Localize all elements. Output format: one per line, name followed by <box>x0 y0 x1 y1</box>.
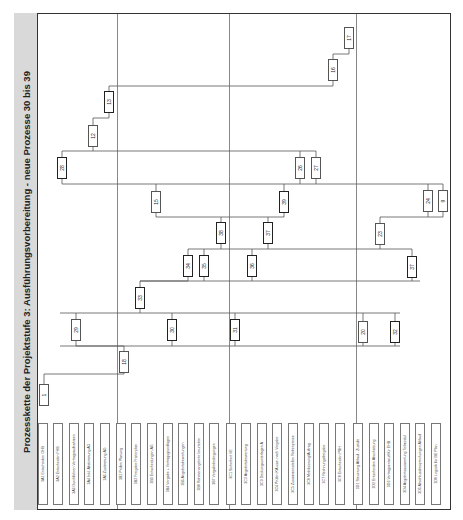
row-label-3c3: 3C3 Deckungsunterlagen A <box>257 423 267 505</box>
process-node-32[interactable]: 32 <box>390 321 400 343</box>
process-node-number: 36 <box>249 263 255 269</box>
process-node-26[interactable]: 26 <box>295 157 305 179</box>
process-node-number: 32 <box>392 329 398 335</box>
row-label-text: 3B3 Entscheidungen AG <box>150 444 154 483</box>
process-node-27[interactable]: 27 <box>311 157 321 179</box>
row-label-3d5: 3D5 Abschlussbesprechungen Ablauf <box>415 423 425 505</box>
process-node-24[interactable]: 24 <box>423 190 433 212</box>
row-label-3a3: 3A3 Durchführen Vertragsaufnahmen <box>69 423 79 505</box>
process-node-number: 29 <box>73 327 79 333</box>
process-node-15[interactable]: 15 <box>151 191 161 213</box>
process-node-number: 26 <box>297 165 303 171</box>
row-label-text: 3C3 Deckungsunterlagen A <box>260 442 264 486</box>
row-label-text: 3D4 Angebotsauswertung Teilmodul <box>403 435 407 492</box>
row-label-text: 3C8 Entscheiden PBH <box>338 446 342 482</box>
row-label-3b6: 3B6 Rahmenangebote beurteilen <box>194 423 204 505</box>
process-node-number: 24 <box>425 198 431 204</box>
process-node-33[interactable]: 33 <box>135 287 145 309</box>
process-node-35[interactable]: 35 <box>199 255 209 277</box>
row-label-3a4: 3A4 Inkl. Abstimmung AG <box>84 423 94 505</box>
row-label-3c1: 3C1 Sicherheit VE <box>226 423 236 505</box>
row-label-text: 3C7 Rechnungsfreigabe <box>322 445 326 484</box>
row-label-text: 3D2 Entscheiden Abschätzung <box>372 440 376 489</box>
process-node-13[interactable]: 13 <box>104 91 114 113</box>
process-node-31[interactable]: 31 <box>230 319 240 341</box>
process-node-number: 18 <box>121 359 127 365</box>
row-label-text: 3A1 Entscheiden OHB <box>41 446 45 482</box>
row-label-3d6: 3D6 Logistik für BE Plan <box>431 423 441 505</box>
row-label-3d3: 3D3 Vertragsentwurf für EHB <box>384 423 394 505</box>
row-label-text: 3B1 Prüfen Planung <box>119 448 123 480</box>
row-label-text: 3B5 Angebotsbewertungen <box>181 442 185 485</box>
row-label-3a5: 3A5 Zustimmung AG <box>100 423 110 505</box>
process-node-37[interactable]: 37 <box>407 256 417 278</box>
process-node-number: 28 <box>59 165 65 171</box>
process-node-39[interactable]: 39 <box>279 191 289 213</box>
row-label-text: 3D6 Logistik für BE Plan <box>434 445 438 484</box>
row-label-text: 3A3 Durchführen Vertragsaufnahmen <box>72 434 76 494</box>
process-node-number: 35 <box>201 263 207 269</box>
row-label-3b7: 3B7 Vergabebedingungen <box>209 423 219 505</box>
row-label-3d4: 3D4 Angebotsauswertung Teilmodul <box>400 423 410 505</box>
process-node-38[interactable]: 38 <box>216 222 226 244</box>
process-node-17[interactable]: 17 <box>344 27 354 49</box>
row-label-text: 3C2 Angebotsbewertung <box>244 444 248 483</box>
row-label-text: 3A4 Inkl. Abstimmung AG <box>87 444 91 485</box>
row-label-text: 3C1 Sicherheit VE <box>229 449 233 478</box>
row-label-3a1: 3A1 Entscheiden OHB <box>38 423 48 505</box>
row-label-text: 3D3 Vertragsentwurf für EHB <box>387 441 391 487</box>
process-node-number: 38 <box>218 230 224 236</box>
process-node-37b[interactable]: 37 <box>263 222 273 244</box>
process-node-18[interactable]: 18 <box>119 351 129 373</box>
row-label-text: 3C4 Prüfen KA usw. nach Vergabe <box>275 436 279 491</box>
process-node-number: 15 <box>153 199 159 205</box>
process-node-36[interactable]: 36 <box>247 255 257 277</box>
process-node-number: 1 <box>41 394 47 397</box>
row-label-text: 3B4 Vergabe + Vertragsgrundlagen <box>166 436 170 492</box>
row-label-3c4: 3C4 Prüfen KA usw. nach Vergabe <box>272 423 282 505</box>
row-label-3c6: 3C6 Mobilisierung/Auftrag <box>304 423 314 505</box>
process-node-number: 13 <box>106 99 112 105</box>
process-node-20[interactable]: 20 <box>358 321 368 343</box>
row-label-3d1: 3D1 Steuerung Ablauf - Zustufe <box>353 423 363 505</box>
process-node-29[interactable]: 29 <box>71 319 81 341</box>
process-node-number: 39 <box>281 199 287 205</box>
process-node-number: 31 <box>232 327 238 333</box>
row-label-text: 3B6 Rahmenangebote beurteilen <box>197 438 201 491</box>
row-label-3b2: 3B2 Freigabe Fristenplan <box>131 423 141 505</box>
process-node-number: 34 <box>185 263 191 269</box>
row-label-3b3: 3B3 Entscheidungen AG <box>147 423 157 505</box>
row-label-text: 3C5 Zusammenstellen Nebenpreise <box>291 435 295 492</box>
row-label-3b4: 3B4 Vergabe + Vertragsgrundlagen <box>163 423 173 505</box>
process-node-34[interactable]: 34 <box>183 255 193 277</box>
process-node-30[interactable]: 30 <box>167 319 177 341</box>
row-label-3c8: 3C8 Entscheiden PBH <box>335 423 345 505</box>
row-label-3b5: 3B5 Angebotsbewertungen <box>178 423 188 505</box>
process-node-number: 37 <box>265 230 271 236</box>
row-label-3d2: 3D2 Entscheiden Abschätzung <box>369 423 379 505</box>
row-label-text: 3A2 Entscheiden FHB <box>56 446 60 481</box>
process-node-number: 12 <box>90 133 96 139</box>
process-node-number: 16 <box>330 67 336 73</box>
row-label-3c2: 3C2 Angebotsbewertung <box>241 423 251 505</box>
process-node-number: 33 <box>137 295 143 301</box>
row-label-text: 3D5 Abschlussbesprechungen Ablauf <box>418 434 422 494</box>
row-label-text: 3A5 Zustimmung AG <box>103 447 107 480</box>
process-node-12[interactable]: 12 <box>88 125 98 147</box>
process-node-number: 30 <box>169 327 175 333</box>
row-label-text: 3B2 Freigabe Fristenplan <box>134 444 138 484</box>
row-label-text: 3B7 Vergabebedingungen <box>212 443 216 485</box>
process-node-16[interactable]: 16 <box>328 59 338 81</box>
process-node-number: 20 <box>360 329 366 335</box>
row-label-3a2: 3A2 Entscheiden FHB <box>53 423 63 505</box>
process-node-9[interactable]: 9 <box>438 190 448 212</box>
process-node-23[interactable]: 23 <box>375 223 385 245</box>
process-node-number: 23 <box>377 231 383 237</box>
process-node-number: 9 <box>440 200 446 203</box>
row-label-text: 3D1 Steuerung Ablauf - Zustufe <box>356 439 360 489</box>
row-label-text: 3C6 Mobilisierung/Auftrag <box>307 443 311 484</box>
process-node-1[interactable]: 1 <box>39 384 49 406</box>
process-node-number: 17 <box>346 35 352 41</box>
row-label-3b1: 3B1 Prüfen Planung <box>116 423 126 505</box>
process-node-28[interactable]: 28 <box>57 157 67 179</box>
